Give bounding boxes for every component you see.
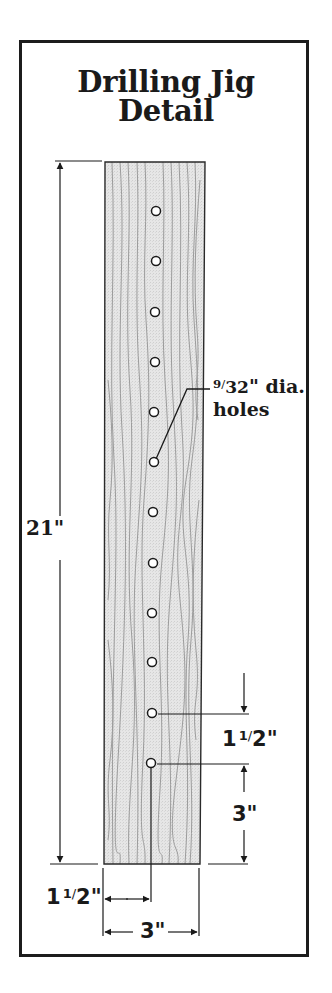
spacing-numerator: 1 xyxy=(239,728,248,743)
hole-3 xyxy=(151,308,160,317)
hole-10 xyxy=(148,658,157,667)
length-value: 21" xyxy=(26,516,64,540)
hole-2 xyxy=(152,257,161,266)
hole-5 xyxy=(150,408,159,417)
jig-drawing xyxy=(0,0,332,993)
end-offset-value: 3" xyxy=(232,802,258,826)
hole-7 xyxy=(149,508,158,517)
edge-offset-inch: " xyxy=(91,885,102,909)
hole-4 xyxy=(151,358,160,367)
hole-6 xyxy=(150,458,159,467)
hole-1 xyxy=(152,207,161,216)
board-width-value: 3" xyxy=(140,919,166,943)
spacing-denominator: 2 xyxy=(252,727,267,751)
hole-dia-unit: " dia. xyxy=(249,375,305,397)
hole-11 xyxy=(148,709,157,718)
length-dimension xyxy=(50,161,102,864)
hole-dia-denominator: 32 xyxy=(225,377,249,397)
hole-12 xyxy=(147,759,156,768)
hole-dia-numerator: 9 xyxy=(213,377,221,391)
hole-8 xyxy=(149,559,158,568)
hole-diameter-label: 9/32" dia. holes xyxy=(213,373,305,420)
edge-offset-numerator: 1 xyxy=(63,886,72,901)
edge-offset-denominator: 2 xyxy=(76,885,91,909)
spacing-inch: " xyxy=(267,727,278,751)
hole-diameter-line-1: 9/32" dia. xyxy=(213,373,305,398)
board-width-label: 3" xyxy=(140,919,166,943)
spacing-whole: 1 xyxy=(222,727,237,751)
length-label: 21" xyxy=(24,516,66,540)
hole-9 xyxy=(148,609,157,618)
edge-offset-whole: 1 xyxy=(46,885,61,909)
hole-spacing-label: 11/2" xyxy=(222,727,278,751)
end-offset-label: 3" xyxy=(232,802,258,826)
hole-diameter-line-2: holes xyxy=(213,398,305,420)
edge-offset-label: 11/2" xyxy=(46,885,102,909)
